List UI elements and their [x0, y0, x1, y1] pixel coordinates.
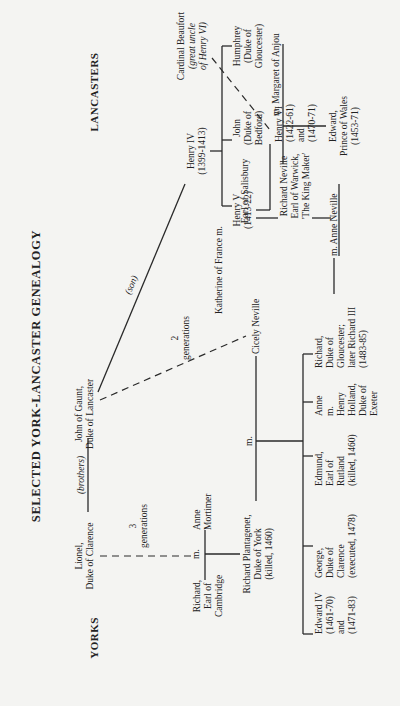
- svg-text:Duke of Clarence: Duke of Clarence: [85, 523, 95, 590]
- svg-text:John of Gaunt,: John of Gaunt,: [74, 386, 84, 442]
- svg-text:of Henry VI): of Henry VI): [198, 22, 209, 70]
- svg-text:Anne: Anne: [314, 395, 324, 416]
- diagram-title: SELECTED YORK-LANCASTER GENEALOGY: [29, 230, 43, 522]
- svg-text:Holland,: Holland,: [347, 383, 357, 416]
- svg-text:Henry: Henry: [336, 392, 346, 416]
- richard-york-node: Richard Plantagenet, Duke of York (kille…: [242, 514, 275, 593]
- svg-text:Anne: Anne: [192, 509, 202, 530]
- svg-text:Henry V: Henry V: [232, 193, 242, 226]
- svg-text:(1461-70): (1461-70): [325, 596, 336, 634]
- svg-text:Exeter: Exeter: [369, 390, 379, 416]
- son-label: (son): [123, 274, 141, 296]
- svg-text:Humphrey: Humphrey: [232, 25, 242, 66]
- son-line: [98, 184, 185, 392]
- margaret-node: m. Margaret of Anjou: [271, 33, 281, 116]
- katherine-node: Katherine of France m.: [214, 226, 224, 314]
- svg-text:2: 2: [170, 335, 180, 340]
- richard3-node: Richard, Duke of Gloucester; later Richa…: [314, 307, 369, 368]
- svg-text:(1470-71): (1470-71): [307, 104, 318, 142]
- lionel-node: Lionel, Duke of Clarence: [74, 523, 95, 590]
- svg-text:Lionel,: Lionel,: [74, 542, 84, 569]
- john-bedford-node: John (Duke of Bedford): [232, 110, 265, 145]
- three-generations-label: generations: [139, 504, 149, 548]
- svg-text:and: and: [336, 620, 346, 634]
- gaunt-node: John of Gaunt, Duke of Lancaster: [74, 378, 95, 449]
- george-node: George, Duke of Clarence (executed, 1478…: [314, 514, 358, 578]
- svg-text:(executed, 1478): (executed, 1478): [347, 514, 358, 578]
- svg-text:(1399-1413): (1399-1413): [197, 127, 208, 175]
- gaunt-to-cicely-dashed: [100, 336, 246, 400]
- svg-text:(1453-71): (1453-71): [350, 107, 361, 145]
- svg-text:m.: m.: [244, 436, 254, 446]
- svg-text:Duke of: Duke of: [325, 546, 335, 578]
- svg-text:Gloucester): Gloucester): [254, 24, 265, 68]
- henry5-node: Henry V (1413-22): [232, 191, 254, 229]
- svg-text:Edmund,: Edmund,: [314, 451, 324, 486]
- anne-mortimer-node: Anne Mortimer: [192, 493, 213, 530]
- edmund-node: Edmund, Earl of Rutland (killed, 1460): [314, 434, 358, 486]
- humphrey-node: Humphrey (Duke of Gloucester): [232, 24, 265, 68]
- anne-york-node: Anne m. Henry Holland, Duke of Exeter: [314, 383, 379, 416]
- svg-text:3: 3: [128, 523, 138, 528]
- lancasters-header: LANCASTERS: [88, 53, 100, 132]
- svg-text:George,: George,: [314, 548, 324, 578]
- svg-text:Duke of Lancaster: Duke of Lancaster: [85, 378, 95, 449]
- richard-cambridge-node: Richard, Earl of Cambridge: [192, 575, 224, 617]
- edward-prince-node: Edward, Prince of Wales (1453-71): [328, 96, 361, 156]
- svg-text:Henry IV: Henry IV: [186, 133, 196, 169]
- svg-text:(1413-22): (1413-22): [243, 191, 254, 229]
- svg-text:m.: m.: [325, 406, 335, 416]
- svg-text:Earl of Warwick,: Earl of Warwick,: [290, 154, 300, 219]
- svg-text:Duke of: Duke of: [358, 384, 368, 416]
- svg-text:Bedford): Bedford): [254, 111, 265, 145]
- svg-text:(Duke of: (Duke of: [243, 110, 254, 145]
- svg-text:John: John: [232, 119, 242, 137]
- svg-text:Cambridge: Cambridge: [214, 575, 224, 617]
- svg-text:'The King Maker': 'The King Maker': [301, 152, 311, 219]
- svg-text:(killed, 1460): (killed, 1460): [347, 434, 358, 486]
- svg-text:Edward IV: Edward IV: [314, 592, 324, 634]
- svg-text:(great uncle: (great uncle: [187, 23, 198, 69]
- svg-text:Richard Plantagenet,: Richard Plantagenet,: [242, 514, 252, 593]
- svg-text:and: and: [296, 128, 306, 142]
- svg-text:Prince of Wales: Prince of Wales: [339, 96, 349, 156]
- svg-text:(Duke of: (Duke of: [243, 28, 254, 63]
- svg-text:Duke of: Duke of: [325, 336, 335, 368]
- two-generations-label: generations: [181, 316, 191, 360]
- genealogy-svg: SELECTED YORK-LANCASTER GENEALOGY YORKS …: [0, 0, 400, 706]
- brothers-label: (brothers): [76, 456, 87, 494]
- svg-text:Richard,: Richard,: [314, 336, 324, 368]
- svg-text:(1483-85): (1483-85): [358, 330, 369, 368]
- svg-text:Richard Neville: Richard Neville: [279, 156, 289, 216]
- svg-text:Earl of: Earl of: [203, 582, 213, 609]
- svg-text:(1422-61): (1422-61): [285, 104, 296, 142]
- svg-text:Rutland: Rutland: [336, 456, 346, 486]
- svg-text:Cardinal Beaufort: Cardinal Beaufort: [176, 11, 186, 80]
- svg-text:Richard,: Richard,: [192, 580, 202, 612]
- svg-text:Edward,: Edward,: [328, 110, 338, 142]
- svg-text:Mortimer: Mortimer: [203, 493, 213, 530]
- svg-text:Earl of: Earl of: [325, 459, 335, 486]
- beaufort-node: Cardinal Beaufort (great uncle of Henry …: [176, 11, 209, 80]
- yorks-header: YORKS: [88, 617, 100, 659]
- svg-text:Gloucester;: Gloucester;: [336, 324, 346, 368]
- svg-text:later Richard III: later Richard III: [347, 307, 357, 368]
- svg-text:(1471-83): (1471-83): [347, 596, 358, 634]
- anne-neville-node: m. Anne Neville: [329, 193, 339, 256]
- svg-text:(killed, 1460): (killed, 1460): [264, 528, 275, 580]
- svg-text:Duke of York: Duke of York: [253, 528, 263, 580]
- warwick-node: Richard Neville Earl of Warwick, 'The Ki…: [279, 152, 311, 219]
- cicely-neville-node: Cicely Neville: [251, 299, 261, 354]
- henry4-node: Henry IV (1399-1413): [186, 127, 208, 175]
- svg-text:Clarence: Clarence: [336, 544, 346, 578]
- edward4-node: Edward IV (1461-70) and (1471-83): [314, 592, 358, 634]
- genealogy-diagram: SELECTED YORK-LANCASTER GENEALOGY YORKS …: [0, 0, 400, 706]
- svg-text:m.: m.: [191, 549, 201, 559]
